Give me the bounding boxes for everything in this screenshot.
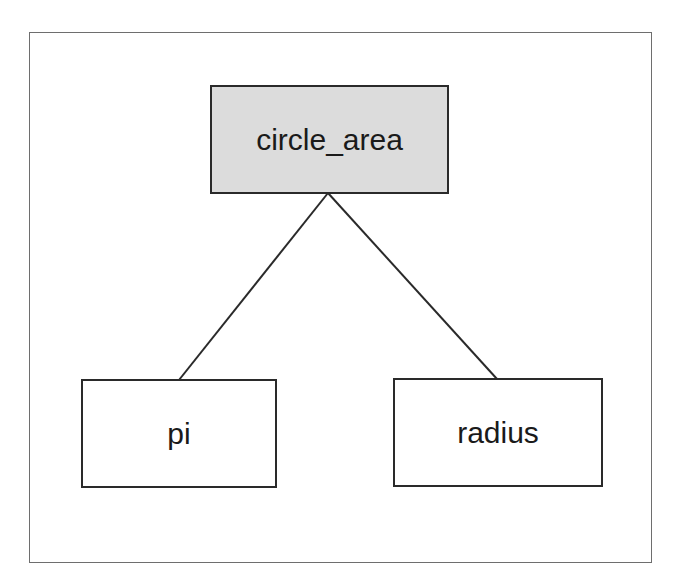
node-label: circle_area [256,123,403,157]
edge-circle-area-to-pi [179,193,328,380]
node-label: pi [167,417,190,451]
node-pi: pi [81,379,277,488]
node-circle-area: circle_area [210,85,449,194]
node-radius: radius [393,378,603,487]
edge-circle-area-to-radius [328,193,497,379]
node-label: radius [457,416,539,450]
